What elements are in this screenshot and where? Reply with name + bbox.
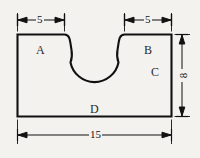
dimension-value-right-offset: 5 <box>144 14 152 25</box>
extension-lines <box>18 13 191 144</box>
arrowhead-right-offset-start <box>125 17 134 23</box>
arrowhead-height-bottom <box>179 107 185 116</box>
face-label-d: D <box>90 103 99 115</box>
face-label-a: A <box>36 44 45 56</box>
arrowhead-height-top <box>179 35 185 44</box>
dimension-value-height: 8 <box>178 69 189 82</box>
arrowhead-right-offset-end <box>162 17 171 23</box>
face-label-b: B <box>144 44 152 56</box>
arrowhead-left-offset-end <box>55 17 64 23</box>
technical-drawing-screenshot: 5 5 8 15 A B C D <box>0 0 200 158</box>
arrowhead-left-offset-start <box>18 17 27 23</box>
dimension-value-width: 15 <box>89 129 102 140</box>
arrowhead-width-start <box>18 132 27 138</box>
face-label-c: C <box>151 66 159 78</box>
dimension-value-left-offset: 5 <box>36 14 44 25</box>
arrowhead-width-end <box>162 132 171 138</box>
dimension-lines <box>18 14 189 141</box>
